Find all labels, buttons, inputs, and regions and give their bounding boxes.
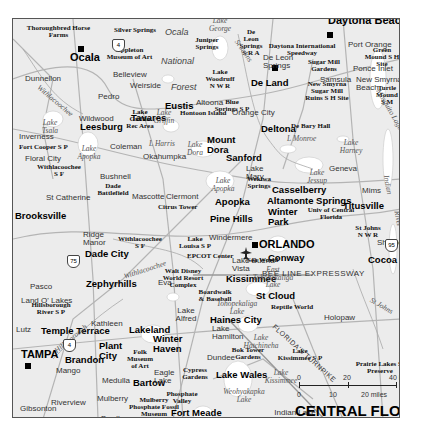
water-lake-griffin: Lake Griffin (153, 109, 175, 124)
town-coleman: Coleman (110, 143, 142, 151)
city-apopka[interactable]: Apopka (215, 197, 250, 207)
city-altamonte-springs[interactable]: Altamonte Springs (267, 196, 351, 206)
poi-sugar-mill-gardens[interactable]: Sugar Mill Gardens (307, 59, 341, 73)
poi-epcot-center[interactable]: EPCOT Center (187, 253, 233, 260)
city-cocoa[interactable]: Cocoa (368, 255, 397, 265)
city-sanford[interactable]: Sanford (226, 153, 262, 163)
poi-appleton-museum[interactable]: Appleton Museum of Art (102, 47, 157, 61)
i75-shield: 75 (67, 255, 80, 268)
poi-juniper-springs[interactable]: Juniper Springs (193, 37, 221, 51)
city-daytona-beach[interactable]: Daytona Beach (328, 18, 400, 26)
poi-withlacoochee-sf-south[interactable]: Withlacoochee S F (116, 236, 164, 250)
water-lake-kissimmee: Lake Kissimmee (263, 369, 299, 384)
city-marker (327, 32, 333, 38)
airport-icon (240, 247, 252, 259)
town-medulla: Medulla (102, 377, 130, 385)
water-lake-apopka-west: Lake Apopka (75, 145, 103, 160)
poi-lake-louisa-sp[interactable]: Lake Louisa S P (177, 236, 213, 250)
town-belleview: Belleview (113, 71, 147, 79)
water-l-monroe: L Monroe (287, 135, 316, 143)
poi-lake-griffin-rec[interactable]: Lake Griffin Rec Area (125, 109, 155, 130)
poi-fort-cooper-sp[interactable]: Fort Cooper S P (19, 144, 68, 151)
city-de-land[interactable]: De Land (251, 78, 288, 88)
town-mascotte: Mascotte (132, 193, 164, 201)
town-weirside: Weirside (130, 82, 161, 90)
city-brooksville[interactable]: Brooksville (15, 211, 66, 221)
poi-prairie-lakes[interactable]: Prairie Lakes St Preserve (355, 361, 400, 375)
town-mulberry: Mulberry (97, 395, 128, 403)
poi-green-mound[interactable]: Green Mound S H Site (361, 47, 400, 68)
city-mount-dora[interactable]: Mount Dora (207, 135, 247, 154)
map-frame: Ocala Daytona Beach ORLANDO TAMPA De Lan… (12, 18, 400, 418)
water-l-harris: L Harris (149, 140, 175, 148)
poi-ucf[interactable]: Univ of Central Florida (307, 207, 355, 221)
water-lake-hatchineha: Lake Hatchineha (241, 334, 281, 349)
city-zephyrhills[interactable]: Zephyrhills (86, 279, 137, 289)
city-winter-haven[interactable]: Winter Haven (153, 334, 187, 353)
town-bushnell: Bushnell (100, 173, 131, 181)
water-lake-dora: Lake Dora (185, 141, 205, 156)
water-weohyakapka-lake: Weohyakapka Lake (219, 388, 269, 403)
poi-wekiwa-springs[interactable]: Wekiwa Springs (245, 176, 273, 190)
water-river: River (393, 210, 400, 227)
city-pine-hills[interactable]: Pine Hills (210, 214, 253, 224)
town-dunnellon: Dunnellon (25, 75, 61, 83)
town-st-catherine: St Catherine (46, 194, 90, 202)
town-windermere: Windermere (209, 234, 253, 242)
town-floral-city: Floral City (25, 155, 61, 163)
poi-dade-battlefield[interactable]: Dade Battlefield (95, 183, 131, 197)
poi-withlacoochee-sf-north[interactable]: Withlacoochee S F (35, 164, 83, 178)
city-leesburg[interactable]: Leesburg (80, 122, 123, 132)
road-bee-line-expressway: BEE LINE EXPRESSWAY (262, 270, 365, 278)
city-tampa[interactable]: TAMPA (21, 349, 58, 360)
city-marker (252, 242, 258, 248)
water-lake-george: Lake George (208, 18, 232, 32)
city-ocala[interactable]: Ocala (70, 52, 100, 63)
city-dade-city[interactable]: Dade City (85, 249, 129, 259)
region-national: National (161, 57, 194, 66)
map-title: CENTRAL FLORIDA (295, 403, 400, 418)
city-casselberry[interactable]: Casselberry (272, 185, 326, 195)
water-lake-tsala: Lake Tsala (39, 119, 61, 134)
town-kathleen: Kathleen (91, 320, 123, 328)
poi-cypress-gardens[interactable]: Cypress Gardens (181, 367, 209, 381)
town-eagle-lake: Eagle Lake (154, 369, 176, 385)
poi-de-bary-hall[interactable]: De Bary Hall (291, 123, 330, 130)
poi-daytona-speedway[interactable]: Daytona International Speedway (266, 43, 338, 57)
city-orlando[interactable]: ORLANDO (259, 239, 315, 250)
water-lake-harney: Lake Harney (335, 139, 367, 154)
city-winter-park[interactable]: Winter Park (268, 207, 304, 226)
town-holopaw: Holopaw (324, 314, 355, 322)
town-pasco: Pasco (30, 283, 52, 291)
poi-new-smyrna-ruins[interactable]: New Smyrna Sugar Mill Ruins S H Site (305, 81, 349, 102)
poi-citrus-tower[interactable]: Citrus Tower (158, 204, 197, 211)
town-bradley: Bradley (101, 415, 128, 418)
town-mango: Mango (56, 367, 80, 375)
city-plant-city[interactable]: Plant City (99, 341, 127, 360)
poi-reptile-world[interactable]: Reptile World (271, 304, 313, 311)
town-riverview: Riverview (51, 399, 86, 407)
water-lake-jessup: Lake Jessup (303, 169, 331, 184)
poi-silver-springs[interactable]: Silver Springs (114, 27, 156, 34)
city-st-cloud[interactable]: St Cloud (256, 291, 295, 301)
poi-st-johns-nwr[interactable]: St Johns N W R (352, 225, 384, 239)
water-tohopekaliga: Tohopekaliga Lake (213, 300, 261, 315)
town-okahumpka: Okahumpka (143, 153, 186, 161)
town-pedro: Pedro (98, 93, 119, 101)
i4-shield-south: 4 (63, 339, 76, 352)
poi-lake-woodruff-nwr[interactable]: Lake Woodruff N W R (205, 69, 235, 90)
poi-thoroughbred-horse-farms[interactable]: Thoroughbred Horse Farms (21, 25, 96, 39)
poi-mulberry-fossil-museum[interactable]: Mulberry Phosphate Fossil Museum (129, 397, 179, 418)
city-lake-wales[interactable]: Lake Wales (216, 370, 267, 380)
scale-bar: 0 20 40 kms 0 10 20 miles (299, 374, 400, 402)
city-marker (78, 46, 84, 52)
town-mims: Mims (362, 187, 381, 195)
poi-folk-museum[interactable]: Folk Museum of Art (127, 349, 153, 370)
i95-shield: 95 (385, 239, 398, 252)
town-geneva: Geneva (329, 165, 357, 173)
poi-walt-disney-world[interactable]: Walt Disney World Resort Complex (156, 268, 210, 289)
poi-hillsborough-river-sp[interactable]: Hillsborough River S P (25, 302, 77, 316)
region-ocala: Ocala (165, 28, 189, 37)
town-wildwood: Wildwood (79, 115, 114, 123)
poi-hontoon-island[interactable]: Hontoon Island (180, 110, 227, 117)
